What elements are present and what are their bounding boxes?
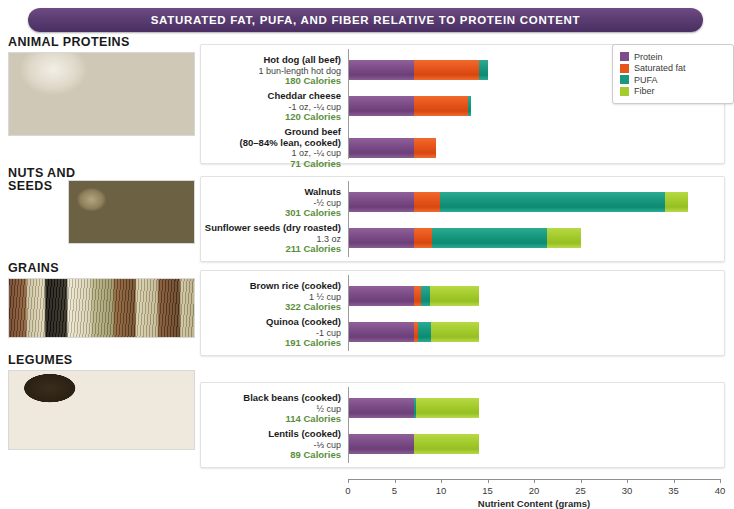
legend-label: PUFA [634,75,658,85]
bar-segment-pufa [421,286,430,306]
legend-item-fiber: Fiber [620,86,726,96]
stacked-bar[interactable] [349,192,688,212]
row-labels: Ground beef(80–84% lean, cooked)1 oz, -¼… [201,127,341,169]
bar-segment-fiber [431,322,479,342]
bar-segment-protein [349,228,414,248]
stacked-bar[interactable] [349,60,488,80]
chart-row[interactable]: Sunflower seeds (dry roasted)1.3 oz211 C… [201,223,724,257]
row-labels: Black beans (cooked)½ cup114 Calories [201,393,341,425]
calorie-count: 191 Calories [201,338,341,349]
bar-segment-fiber [665,192,688,212]
x-tick-label: 20 [529,485,540,496]
bar-segment-fiber [414,434,479,454]
food-name: Sunflower seeds (dry roasted) [201,223,341,234]
legend-swatch-fiber [620,87,629,96]
chart-row[interactable]: Black beans (cooked)½ cup114 Calories [201,393,724,427]
bar-segment-protein [349,286,414,306]
title-banner: SATURATED FAT, PUFA, AND FIBER RELATIVE … [28,8,703,32]
stacked-bar[interactable] [349,286,479,306]
chart-row[interactable]: Ground beef(80–84% lean, cooked)1 oz, -¼… [201,127,724,161]
legumes-photo [8,370,195,450]
animal-proteins-photo [8,52,195,136]
chart-row[interactable]: Brown rice (cooked)1 ½ cup322 Calories [201,281,724,315]
chart-panel: Brown rice (cooked)1 ½ cup322 CaloriesQu… [200,270,725,356]
x-tick-mark [441,479,442,483]
bar-segment-satfat [414,228,432,248]
bar-segment-fiber [547,228,581,248]
chart-row[interactable]: Walnuts-½ cup301 Calories [201,187,724,221]
stacked-bar[interactable] [349,434,479,454]
category-column: ANIMAL PROTEINS NUTS AND SEEDS GRAINS LE… [0,36,200,482]
category-animal-proteins: ANIMAL PROTEINS [8,36,195,136]
bar-segment-fiber [416,398,479,418]
legend-label: Fiber [634,86,655,96]
x-tick-label: 40 [715,485,726,496]
stacked-bar[interactable] [349,96,471,116]
bar-segment-satfat [414,96,468,116]
food-name: Lentils (cooked) [201,429,341,440]
serving-size: 1 oz, -¼ cup [201,148,341,159]
x-tick-label: 5 [392,485,397,496]
page-title: SATURATED FAT, PUFA, AND FIBER RELATIVE … [151,14,580,26]
legend-label: Saturated fat [634,63,686,73]
row-labels: Walnuts-½ cup301 Calories [201,187,341,219]
bar-segment-fiber [430,286,479,306]
x-tick-label: 35 [668,485,679,496]
x-tick-mark [627,479,628,483]
chart-row[interactable]: Quinoa (cooked)-1 cup191 Calories [201,317,724,351]
bar-segment-protein [349,398,414,418]
category-title: GRAINS [8,262,195,275]
stacked-bar[interactable] [349,322,479,342]
calorie-count: 180 Calories [201,76,341,87]
row-labels: Brown rice (cooked)1 ½ cup322 Calories [201,281,341,313]
calorie-count: 211 Calories [201,244,341,255]
bar-segment-pufa [432,228,547,248]
food-name: Hot dog (all beef) [201,55,341,66]
food-name: Cheddar cheese [201,91,341,102]
bar-segment-protein [349,192,414,212]
calorie-count: 322 Calories [201,302,341,313]
bar-segment-pufa [468,96,471,116]
x-tick-label: 0 [345,485,350,496]
bar-segment-pufa [418,322,431,342]
x-tick-mark [488,479,489,483]
x-tick-mark [348,479,349,483]
chart-panel: Black beans (cooked)½ cup114 CaloriesLen… [200,382,725,468]
food-name: Quinoa (cooked) [201,317,341,328]
stacked-bar[interactable] [349,228,581,248]
chart-row[interactable]: Lentils (cooked)-⅓ cup89 Calories [201,429,724,463]
bar-segment-protein [349,138,414,158]
category-grains: GRAINS [8,262,195,338]
stacked-bar[interactable] [349,138,436,158]
stacked-bar[interactable] [349,398,479,418]
x-tick-mark [534,479,535,483]
bar-segment-protein [349,60,414,80]
food-name: Walnuts [201,187,341,198]
chart-panel: Walnuts-½ cup301 CaloriesSunflower seeds… [200,176,725,262]
calorie-count: 120 Calories [201,112,341,123]
bar-segment-satfat [414,60,479,80]
chart-legend: Protein Saturated fat PUFA Fiber [612,44,734,104]
calorie-count: 71 Calories [201,159,341,170]
chart-area: Hot dog (all beef)1 bun-length hot dog18… [200,36,731,486]
legend-label: Protein [634,52,663,62]
x-axis-title: Nutrient Content (grams) [348,498,720,509]
grains-photo [8,278,195,338]
calorie-count: 89 Calories [201,450,341,461]
bar-segment-protein [349,322,414,342]
x-tick-label: 25 [575,485,586,496]
row-labels: Hot dog (all beef)1 bun-length hot dog18… [201,55,341,87]
legend-swatch-saturated-fat [620,64,629,73]
bar-segment-satfat [414,192,440,212]
x-tick-label: 30 [622,485,633,496]
legend-swatch-protein [620,52,629,61]
bar-segment-pufa [440,192,665,212]
x-tick-label: 15 [482,485,493,496]
category-nuts-and-seeds: NUTS AND SEEDS [8,167,195,244]
x-tick-mark [581,479,582,483]
category-title: ANIMAL PROTEINS [8,36,195,49]
x-tick-mark [395,479,396,483]
row-labels: Sunflower seeds (dry roasted)1.3 oz211 C… [201,223,341,255]
legend-item-protein: Protein [620,52,726,62]
x-tick-mark [720,479,721,483]
